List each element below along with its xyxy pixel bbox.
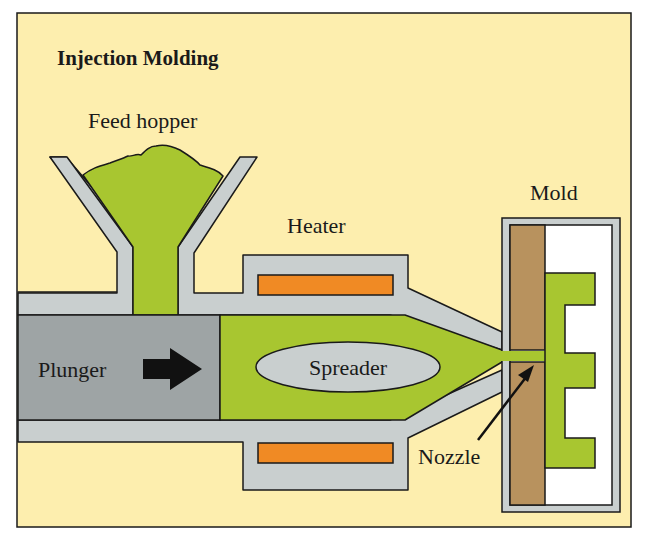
mold-label: Mold [530,180,578,205]
diagram-title: Injection Molding [57,46,219,70]
injection-molding-diagram: Injection Molding Feed hopper Plunger Sp… [0,0,647,548]
plunger-label: Plunger [38,357,107,382]
molded-part [545,273,595,468]
nozzle-label: Nozzle [418,444,480,469]
heater-element-bottom [258,443,393,463]
heater-label: Heater [287,213,346,238]
heater-element-top [258,275,393,295]
mold-plate-top [510,225,545,350]
feed-hopper-label: Feed hopper [88,108,198,133]
spreader-label: Spreader [309,355,388,380]
nozzle-sprue [500,351,546,361]
mold-plate-bottom [510,362,545,505]
